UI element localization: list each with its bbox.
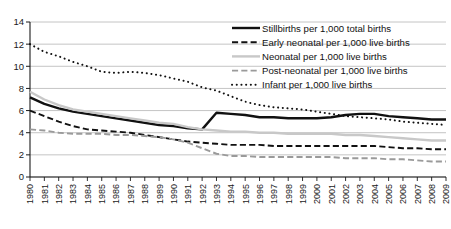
y-axis: 02468101214 <box>13 16 30 182</box>
x-tick-label: 1987 <box>126 184 136 204</box>
x-tick-label: 2009 <box>441 184 451 204</box>
x-tick-label: 1984 <box>83 184 93 204</box>
x-tick-label: 1997 <box>269 184 279 204</box>
x-tick-label: 1995 <box>241 184 251 204</box>
legend-label: Stillbirths per 1,000 total births <box>262 23 391 34</box>
x-tick-label: 1991 <box>183 184 193 204</box>
y-tick-label: 0 <box>19 171 24 182</box>
x-tick-label: 1988 <box>140 184 150 204</box>
x-tick-label: 1994 <box>226 184 236 204</box>
x-tick-label: 2002 <box>341 184 351 204</box>
x-tick-label: 1986 <box>111 184 121 204</box>
x-tick-label: 1983 <box>68 184 78 204</box>
x-tick-label: 1999 <box>298 184 308 204</box>
x-tick-label: 1982 <box>54 184 64 204</box>
x-tick-label: 1990 <box>169 184 179 204</box>
series-line-3 <box>30 129 446 161</box>
x-tick-label: 2005 <box>384 184 394 204</box>
x-tick-label: 1996 <box>255 184 265 204</box>
x-tick-label: 2003 <box>355 184 365 204</box>
x-tick-label: 2008 <box>427 184 437 204</box>
line-chart: 02468101214 1980198119821983198419851986… <box>0 0 451 229</box>
x-tick-label: 1993 <box>212 184 222 204</box>
chart-container: 02468101214 1980198119821983198419851986… <box>0 0 451 229</box>
x-tick-label: 2001 <box>327 184 337 204</box>
legend-label: Neonatal per 1,000 live births <box>262 51 387 62</box>
x-axis: 1980198119821983198419851986198719881989… <box>25 177 451 204</box>
x-tick-label: 1998 <box>284 184 294 204</box>
legend-label: Infant per 1,000 live births <box>262 79 373 90</box>
y-tick-label: 10 <box>13 61 24 72</box>
y-tick-label: 8 <box>19 83 24 94</box>
x-tick-label: 2007 <box>413 184 423 204</box>
x-tick-label: 1980 <box>25 184 35 204</box>
x-tick-label: 2000 <box>312 184 322 204</box>
y-tick-label: 14 <box>13 16 24 27</box>
chart-legend: Stillbirths per 1,000 total birthsEarly … <box>232 23 410 91</box>
y-tick-label: 2 <box>19 149 24 160</box>
legend-label: Early neonatal per 1,000 live births <box>262 37 410 48</box>
x-tick-label: 1992 <box>198 184 208 204</box>
x-tick-label: 2004 <box>370 184 380 204</box>
x-tick-label: 1989 <box>155 184 165 204</box>
legend-label: Post-neonatal per 1,000 live births <box>262 65 408 76</box>
x-tick-label: 2006 <box>398 184 408 204</box>
y-tick-label: 12 <box>13 39 24 50</box>
x-tick-label: 1985 <box>97 184 107 204</box>
y-tick-label: 6 <box>19 105 24 116</box>
y-tick-label: 4 <box>19 127 24 138</box>
x-tick-label: 1981 <box>40 184 50 204</box>
